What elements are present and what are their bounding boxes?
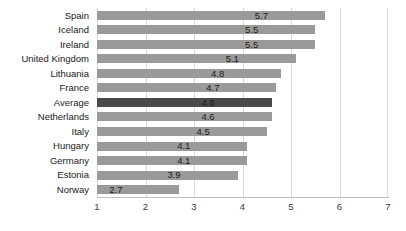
category-label: Italy [0, 124, 93, 139]
bar-value-label: 3.9 [167, 170, 180, 180]
bar-value-label: 5.5 [245, 25, 258, 35]
x-axis-tick-label: 3 [191, 202, 196, 212]
bar [97, 127, 267, 136]
bar-value-label: 4.5 [197, 127, 210, 137]
category-label: Estonia [0, 168, 93, 183]
bar-value-label: 4.6 [201, 112, 214, 122]
category-label: Average [0, 95, 93, 110]
category-axis: SpainIcelandIrelandUnited KingdomLithuan… [0, 8, 93, 197]
x-axis-labels: 1234567 [97, 202, 388, 218]
category-label: United Kingdom [0, 52, 93, 67]
x-axis-tick-label: 6 [337, 202, 342, 212]
bar-row: 4.6 [97, 95, 388, 110]
bar-row: 4.6 [97, 110, 388, 125]
bar [97, 142, 247, 151]
bar-row: 5.1 [97, 52, 388, 67]
bar [97, 69, 281, 78]
x-axis-tick-label: 5 [288, 202, 293, 212]
bar [97, 83, 276, 92]
bar-row: 4.7 [97, 81, 388, 96]
category-label: Germany [0, 153, 93, 168]
category-label: Spain [0, 8, 93, 23]
bar-row: 4.1 [97, 139, 388, 154]
bar [97, 40, 315, 49]
x-axis-tick-label: 2 [143, 202, 148, 212]
bar-row: 4.5 [97, 124, 388, 139]
bar-value-label: 5.5 [245, 40, 258, 50]
x-axis-line [97, 197, 389, 198]
plot-area: 5.75.55.55.14.84.74.64.64.54.14.13.92.7 [97, 8, 388, 197]
category-label: Iceland [0, 23, 93, 38]
category-label: Netherlands [0, 110, 93, 125]
bar [97, 156, 247, 165]
bar-row: 4.1 [97, 153, 388, 168]
bar-value-label: 5.7 [255, 11, 268, 21]
bar-row: 4.8 [97, 66, 388, 81]
bar [97, 112, 272, 121]
bar-value-label: 4.6 [201, 98, 214, 108]
bar-value-label: 4.1 [177, 141, 190, 151]
bar-row: 5.7 [97, 8, 388, 23]
category-label: Hungary [0, 139, 93, 154]
bar-row: 2.7 [97, 182, 388, 197]
bar-row: 5.5 [97, 37, 388, 52]
bar-value-label: 4.8 [211, 69, 224, 79]
bars-layer: 5.75.55.55.14.84.74.64.64.54.14.13.92.7 [97, 8, 388, 197]
bar [97, 11, 325, 20]
bar [97, 25, 315, 34]
bar-value-label: 4.1 [177, 156, 190, 166]
bar [97, 54, 296, 63]
bar-value-label: 5.1 [226, 54, 239, 64]
bar-value-label: 4.7 [206, 83, 219, 93]
bar-value-label: 2.7 [109, 185, 122, 195]
bar-highlighted [97, 98, 272, 107]
x-axis-tick-label: 4 [240, 202, 245, 212]
bar-row: 3.9 [97, 168, 388, 183]
category-label: Ireland [0, 37, 93, 52]
category-label: Lithuania [0, 66, 93, 81]
x-axis-tick-label: 7 [385, 202, 390, 212]
category-label: Norway [0, 182, 93, 197]
x-axis-tick-label: 1 [94, 202, 99, 212]
bar-chart: SpainIcelandIrelandUnited KingdomLithuan… [0, 0, 406, 231]
category-label: France [0, 81, 93, 96]
bar-row: 5.5 [97, 23, 388, 38]
